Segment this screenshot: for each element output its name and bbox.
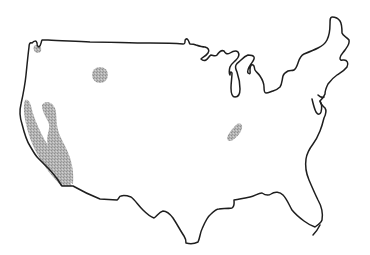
southeastern-shaded-region [227,124,242,141]
us-border-outline [20,17,349,244]
map-canvas [0,0,370,255]
us-outline-map [0,0,370,255]
northern-rockies-shaded-region [92,67,108,83]
chesapeake-bay-outline [312,99,322,114]
